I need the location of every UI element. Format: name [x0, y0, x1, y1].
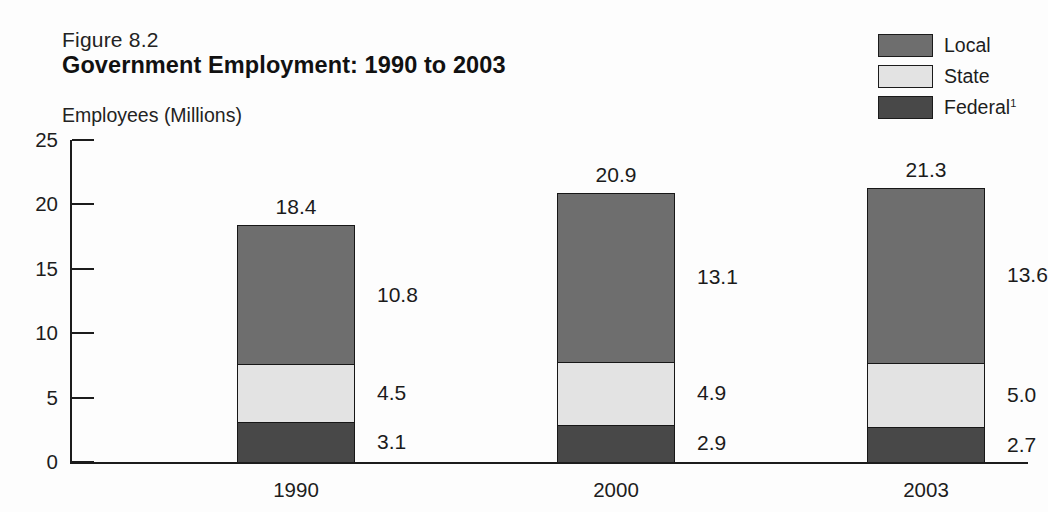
- y-tick-label: 25: [35, 128, 58, 152]
- legend-label-federal: Federal1: [944, 96, 1016, 119]
- bar-group[interactable]: 21.32.75.013.62003: [867, 140, 985, 462]
- y-axis-line: [70, 140, 72, 462]
- bar-segment-federal[interactable]: [237, 422, 355, 462]
- figure-container: Figure 8.2 Government Employment: 1990 t…: [0, 0, 1048, 512]
- x-tick-label: 1990: [273, 478, 319, 502]
- bar-segment-state[interactable]: [867, 363, 985, 427]
- bar-segment-label-federal: 2.7: [1007, 433, 1036, 457]
- x-tick-label: 2000: [593, 478, 639, 502]
- bar-group[interactable]: 20.92.94.913.12000: [557, 140, 675, 462]
- y-tick-mark: [72, 461, 94, 463]
- bar-segment-label-state: 5.0: [1007, 383, 1036, 407]
- y-tick-label: 20: [35, 192, 58, 216]
- bar-stack: [237, 225, 355, 462]
- y-tick-label: 10: [35, 321, 58, 345]
- bar-segment-label-local: 13.6: [1007, 263, 1048, 287]
- legend-label-local: Local: [944, 34, 991, 57]
- figure-number: Figure 8.2: [62, 28, 159, 52]
- legend-label-federal-text: Federal: [944, 96, 1010, 118]
- y-tick-mark: [72, 203, 94, 205]
- y-tick-label: 15: [35, 257, 58, 281]
- bar-total-label: 20.9: [596, 163, 637, 187]
- bar-segment-local[interactable]: [867, 188, 985, 363]
- y-tick-mark: [72, 139, 94, 141]
- legend-label-state: State: [944, 65, 990, 88]
- bar-segment-label-federal: 2.9: [697, 431, 726, 455]
- chart-legend: Local State Federal1: [878, 31, 1016, 124]
- x-tick-label: 2003: [903, 478, 949, 502]
- y-axis-unit-label: Employees (Millions): [62, 104, 242, 127]
- bar-segment-local[interactable]: [237, 225, 355, 364]
- bar-segment-label-federal: 3.1: [377, 430, 406, 454]
- bar-segment-label-state: 4.5: [377, 381, 406, 405]
- y-tick-mark: [72, 397, 94, 399]
- y-tick-mark: [72, 332, 94, 334]
- legend-footnote-marker: 1: [1010, 97, 1016, 109]
- y-tick-label: 5: [47, 386, 58, 410]
- bar-segment-label-local: 10.8: [377, 283, 418, 307]
- y-tick-mark: [72, 268, 94, 270]
- bar-stack: [557, 193, 675, 462]
- legend-swatch-state-icon: [878, 65, 933, 88]
- bar-total-label: 18.4: [276, 195, 317, 219]
- plot-area: 0510152025 18.43.14.510.8199020.92.94.91…: [70, 140, 1028, 462]
- bar-stack: [867, 188, 985, 462]
- bar-segment-label-local: 13.1: [697, 265, 738, 289]
- bar-segment-label-state: 4.9: [697, 381, 726, 405]
- bar-segment-state[interactable]: [557, 362, 675, 425]
- legend-item-federal: Federal1: [878, 93, 1016, 122]
- legend-swatch-federal-icon: [878, 96, 933, 119]
- y-tick-label: 0: [47, 450, 58, 474]
- bar-segment-federal[interactable]: [557, 425, 675, 462]
- bar-segment-federal[interactable]: [867, 427, 985, 462]
- legend-item-state: State: [878, 62, 1016, 91]
- legend-swatch-local-icon: [878, 34, 933, 57]
- figure-title: Government Employment: 1990 to 2003: [62, 52, 506, 79]
- bar-segment-local[interactable]: [557, 193, 675, 362]
- legend-item-local: Local: [878, 31, 1016, 60]
- bar-group[interactable]: 18.43.14.510.81990: [237, 140, 355, 462]
- bar-segment-state[interactable]: [237, 364, 355, 422]
- bar-total-label: 21.3: [906, 158, 947, 182]
